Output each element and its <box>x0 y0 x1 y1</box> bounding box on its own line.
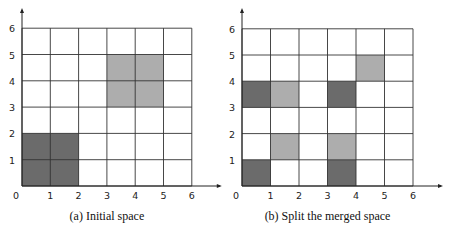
y-tick-label: 6 <box>229 24 235 35</box>
x-axis-arrow-icon <box>217 184 222 188</box>
x-tick-label: 1 <box>268 190 274 201</box>
shaded-cell-dark <box>242 81 271 107</box>
panel-split-merged-space: 0112233445566(b) Split the merged space <box>229 8 443 223</box>
x-tick-label: 1 <box>47 190 53 201</box>
shaded-cell-dark <box>328 81 357 107</box>
x-tick-label: 6 <box>189 190 195 201</box>
y-tick-label: 2 <box>9 128 15 139</box>
x-tick-label: 4 <box>353 190 359 201</box>
x-tick-label: 6 <box>410 190 416 201</box>
panel-initial-space: 0112233445566(a) Initial space <box>9 8 222 223</box>
x-tick-label: 3 <box>325 190 331 201</box>
panel-caption: (a) Initial space <box>70 209 145 223</box>
x-tick-label: 5 <box>161 190 167 201</box>
x-tick-label: 3 <box>104 190 110 201</box>
panel-caption: (b) Split the merged space <box>265 209 391 223</box>
y-tick-label: 4 <box>229 76 235 87</box>
diagram-canvas: 0112233445566(a) Initial space 011223344… <box>0 0 454 230</box>
y-tick-label: 6 <box>9 23 15 34</box>
shaded-cell-light <box>271 81 300 107</box>
x-tick-label: 4 <box>132 190 138 201</box>
shaded-cell-light <box>356 55 385 81</box>
y-tick-label: 3 <box>9 102 15 113</box>
x-tick-label: 5 <box>382 190 388 201</box>
shaded-cell-light <box>328 134 357 160</box>
x-tick-label: 0 <box>13 190 19 201</box>
y-tick-label: 2 <box>229 129 235 140</box>
y-tick-label: 5 <box>9 50 15 61</box>
y-axis-arrow-icon <box>240 8 244 13</box>
y-tick-label: 4 <box>9 76 15 87</box>
y-axis-arrow-icon <box>20 8 24 13</box>
y-tick-label: 5 <box>229 50 235 61</box>
y-tick-label: 1 <box>229 155 235 166</box>
x-tick-label: 0 <box>233 190 239 201</box>
shaded-cell-dark <box>242 160 271 186</box>
shaded-cell-dark <box>328 160 357 186</box>
y-tick-label: 3 <box>229 102 235 113</box>
x-axis-arrow-icon <box>438 184 443 188</box>
x-tick-label: 2 <box>296 190 302 201</box>
shaded-cell-light <box>271 134 300 160</box>
x-tick-label: 2 <box>76 190 82 201</box>
y-tick-label: 1 <box>9 155 15 166</box>
